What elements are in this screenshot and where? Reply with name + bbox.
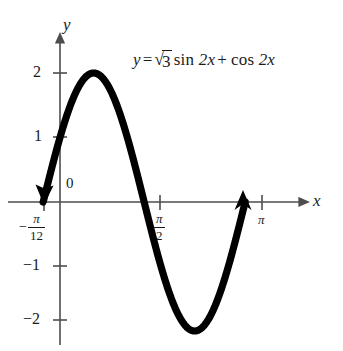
origin-label: 0 xyxy=(66,176,74,191)
sqrt-icon: √3 xyxy=(155,50,172,72)
y-tick-label-minus-2: −2 xyxy=(23,311,40,327)
fraction-denominator: 12 xyxy=(28,228,45,243)
x-tick-label-neg-pi-over-12: − π 12 xyxy=(19,212,45,242)
fraction-denominator: 2 xyxy=(154,228,165,243)
y-tick-label-1: 1 xyxy=(34,128,42,144)
fraction-numerator: π xyxy=(154,212,165,228)
radicand: 3 xyxy=(162,50,172,72)
y-tick-label-2: 2 xyxy=(33,64,41,80)
equation-cos-arg: 2x xyxy=(259,50,275,69)
trig-graph-figure: y=√3sin 2x+cos 2x y x 0 2 1 −1 −2 − π 12… xyxy=(0,0,343,351)
minus-sign: − xyxy=(19,220,27,234)
y-axis-label: y xyxy=(63,16,71,33)
x-tick-label-pi: π xyxy=(258,213,265,226)
y-tick-label-minus-1: −1 xyxy=(23,257,40,273)
equation-equals: = xyxy=(141,50,155,69)
equation-plus: + xyxy=(215,50,229,69)
x-tick-label-pi-over-2: π 2 xyxy=(154,212,165,242)
fraction-numerator: π xyxy=(28,212,45,228)
equation-sin: sin xyxy=(172,50,194,69)
fraction-pi-over-12: π 12 xyxy=(28,212,45,242)
equation-lhs: y xyxy=(133,50,141,69)
fraction-pi-over-2: π 2 xyxy=(154,212,165,242)
x-axis-label: x xyxy=(313,192,321,209)
equation-sin-arg: 2x xyxy=(199,50,215,69)
equation-annotation: y=√3sin 2x+cos 2x xyxy=(133,50,275,72)
equation-cos: cos xyxy=(229,50,254,69)
